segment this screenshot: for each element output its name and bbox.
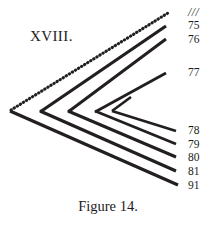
figure-14-container: XVIII. /// 75 76 77 78 79 80 81 91 Figur… <box>0 0 216 227</box>
tip-label-81: 81 <box>188 166 200 178</box>
tip-label-dashes: /// <box>188 7 199 19</box>
tip-label-91: 91 <box>188 180 200 192</box>
tip-label-80: 80 <box>188 152 200 164</box>
figure-caption: Figure 14. <box>0 198 216 215</box>
plate-label: XVIII. <box>30 28 73 45</box>
tip-label-76: 76 <box>188 34 200 46</box>
tip-label-78: 78 <box>188 125 200 137</box>
tip-label-77: 77 <box>188 67 200 79</box>
tip-label-79: 79 <box>188 139 200 151</box>
tip-label-75: 75 <box>188 20 200 32</box>
